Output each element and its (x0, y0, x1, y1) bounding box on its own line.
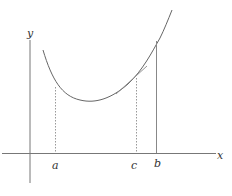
tangent-line (116, 66, 147, 94)
y-axis-label: y (27, 28, 33, 39)
point-label-a: a (52, 160, 59, 171)
point-label-c: c (131, 160, 137, 171)
x-axis-label: x (217, 150, 223, 161)
diagram-canvas: y x a c b (0, 0, 232, 196)
function-curve (43, 10, 172, 101)
point-label-b: b (154, 158, 161, 169)
plot-svg (0, 0, 232, 196)
